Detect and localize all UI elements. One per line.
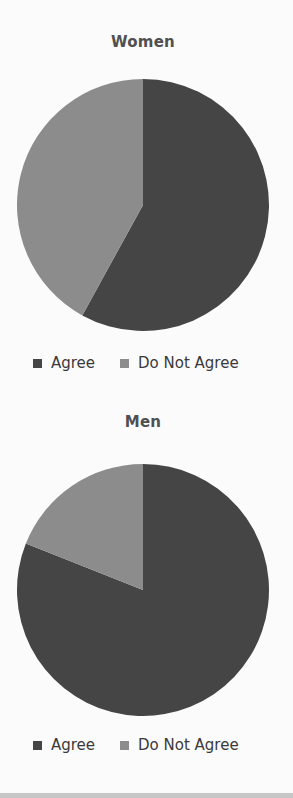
women-pie-svg [16, 78, 270, 332]
agree-swatch-icon [33, 741, 42, 750]
agree-swatch-icon [33, 359, 42, 368]
men-pie-chart [16, 463, 270, 717]
men-chart-title: Men [0, 413, 286, 431]
not-agree-swatch-icon [120, 741, 129, 750]
men-legend: Agree Do Not Agree [33, 735, 273, 755]
women-legend: Agree Do Not Agree [33, 353, 273, 373]
page-edge-band [0, 793, 293, 798]
legend-label-not-agree: Do Not Agree [138, 735, 239, 755]
legend-label-agree: Agree [51, 735, 95, 755]
women-pie-chart [16, 78, 270, 332]
legend-label-not-agree: Do Not Agree [138, 353, 239, 373]
women-chart-title: Women [0, 33, 286, 51]
legend-label-agree: Agree [51, 353, 95, 373]
men-pie-svg [16, 463, 270, 717]
not-agree-swatch-icon [120, 359, 129, 368]
